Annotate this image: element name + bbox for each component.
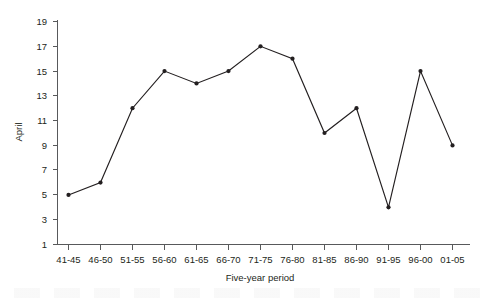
x-tick-label: 56-60: [152, 254, 176, 265]
y-tick-label: 3: [42, 214, 47, 225]
x-axis-tick-labels: 41-45 46-50 51-55 56-60 61-65 66-70 71-7…: [56, 254, 464, 265]
y-tick-label: 1: [42, 239, 47, 250]
x-tick-label: 76-80: [280, 254, 304, 265]
data-point-marker: [386, 205, 390, 209]
y-axis-tick-labels: 1 3 5 7 9 11 13 15 17 19: [36, 16, 47, 250]
data-point-marker: [354, 106, 358, 110]
chart-canvas: 1 3 5 7 9 11 13 15 17 19 April: [0, 0, 487, 298]
x-tick-label: 61-65: [184, 254, 208, 265]
y-tick-label: 19: [36, 16, 47, 27]
x-tick-label: 86-90: [344, 254, 368, 265]
data-point-marker: [66, 193, 70, 197]
data-series-line: [69, 46, 453, 207]
data-point-marker: [258, 44, 262, 48]
x-tick-label: 51-55: [120, 254, 144, 265]
data-point-marker: [162, 69, 166, 73]
data-point-marker: [194, 81, 198, 85]
x-tick-label: 71-75: [248, 254, 272, 265]
y-tick-label: 5: [42, 189, 47, 200]
data-point-marker: [98, 180, 102, 184]
y-tick-label: 9: [42, 140, 47, 151]
y-tick-label: 17: [36, 41, 47, 52]
x-axis-title: Five-year period: [226, 272, 295, 283]
y-axis-ticks: [53, 22, 58, 245]
x-tick-label: 01-05: [440, 254, 464, 265]
data-point-marker: [450, 143, 454, 147]
y-tick-label: 13: [36, 90, 47, 101]
data-point-marker: [290, 57, 294, 61]
y-tick-label: 7: [42, 164, 47, 175]
data-point-marker: [130, 106, 134, 110]
y-axis-title: April: [13, 122, 24, 141]
data-point-marker: [226, 69, 230, 73]
x-tick-label: 81-85: [312, 254, 336, 265]
data-point-marker: [418, 69, 422, 73]
x-tick-label: 46-50: [88, 254, 112, 265]
y-tick-label: 11: [37, 115, 47, 126]
x-tick-label: 91-95: [376, 254, 400, 265]
x-tick-label: 41-45: [56, 254, 80, 265]
x-tick-label: 66-70: [216, 254, 240, 265]
data-point-marker: [322, 131, 326, 135]
line-chart: 1 3 5 7 9 11 13 15 17 19 April: [0, 0, 487, 298]
y-tick-label: 15: [36, 66, 47, 77]
x-axis-ticks: [69, 245, 453, 250]
x-tick-label: 96-00: [408, 254, 432, 265]
